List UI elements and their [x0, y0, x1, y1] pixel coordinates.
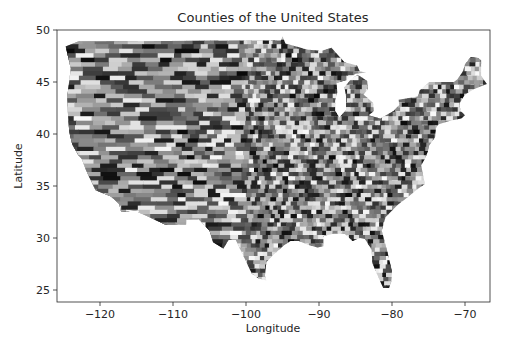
y-tick-label: 30 [36, 232, 50, 245]
chart-title: Counties of the United States [177, 10, 369, 25]
y-axis-label: Latitude [12, 143, 25, 189]
y-tick-label: 40 [36, 128, 50, 141]
y-axis: 253035404550 [36, 24, 57, 297]
chart-figure: Counties of the United States −120−110−1… [0, 0, 515, 352]
x-tick-label: −70 [453, 308, 476, 321]
x-axis: −120−110−100−90−80−70 [85, 302, 477, 321]
x-tick-label: −90 [307, 308, 330, 321]
x-tick-label: −110 [158, 308, 188, 321]
y-tick-label: 25 [36, 284, 50, 297]
x-tick-label: −120 [85, 308, 115, 321]
x-axis-label: Longitude [246, 322, 301, 335]
x-tick-label: −80 [380, 308, 403, 321]
y-tick-label: 50 [36, 24, 50, 37]
county-map [64, 35, 496, 311]
x-tick-label: −100 [231, 308, 261, 321]
y-tick-label: 35 [36, 180, 50, 193]
y-tick-label: 45 [36, 76, 50, 89]
